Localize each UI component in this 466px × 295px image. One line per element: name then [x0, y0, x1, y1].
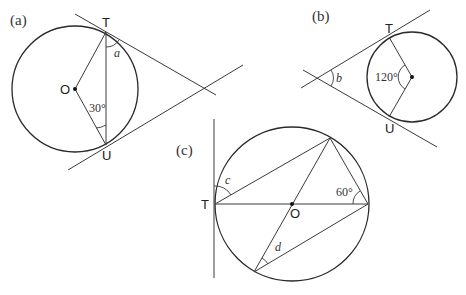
angle-120: 120°	[375, 71, 398, 83]
point-U-b: U	[385, 122, 394, 135]
angle-arc-120	[398, 65, 405, 89]
angle-arc-30	[96, 125, 106, 128]
tangent-at-T-a	[75, 14, 216, 95]
radius-OU-a	[75, 89, 106, 145]
angle-c: c	[225, 174, 230, 186]
diagram-c	[214, 119, 369, 281]
point-T-c: T	[201, 198, 209, 211]
chord-T-top-c	[215, 138, 330, 204]
tangent-at-U-b	[303, 70, 437, 147]
angle-b: b	[336, 72, 342, 84]
center-dot-a	[73, 87, 77, 91]
chord-bottom-right-c	[254, 204, 368, 272]
point-O-a: O	[60, 83, 70, 96]
center-dot-b	[410, 75, 414, 79]
angle-arc-b	[331, 70, 334, 86]
angle-d: d	[275, 241, 281, 253]
geometry-drawing	[0, 0, 466, 295]
label-diagram-b: (b)	[312, 9, 330, 24]
point-O-c: O	[290, 207, 300, 220]
angle-arc-60	[353, 191, 360, 204]
point-T-b: T	[385, 22, 393, 35]
angle-30: 30°	[89, 102, 106, 114]
point-T-a: T	[102, 16, 110, 29]
angle-arc-d	[262, 258, 268, 264]
angle-a: a	[114, 47, 120, 59]
label-diagram-c: (c)	[176, 143, 193, 158]
diagram-a	[12, 14, 243, 170]
angle-60: 60°	[336, 186, 353, 198]
point-U-a: U	[102, 149, 111, 162]
tangent-at-U-a	[68, 65, 243, 170]
radius-OT-a	[75, 32, 106, 89]
circle-theorems-figure: (a) T O U 30° a (b) T U 120° b (c) T O 6…	[0, 0, 466, 295]
label-diagram-a: (a)	[10, 13, 27, 28]
